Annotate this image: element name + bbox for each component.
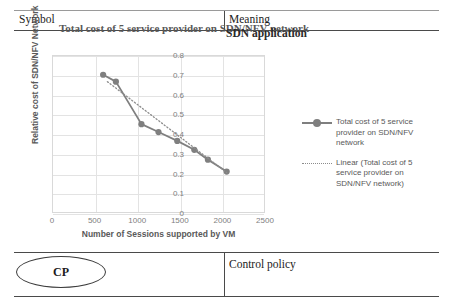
y-axis-tick-label: 0.8 bbox=[144, 51, 184, 60]
data-point-marker[interactable] bbox=[100, 72, 106, 78]
table-row-bottom-rule bbox=[14, 296, 439, 297]
x-axis-tick-label: 1500 bbox=[160, 216, 200, 225]
legend-label-trendline: Linear (Total cost of 5 service provider… bbox=[336, 158, 439, 190]
table-cell-meaning-cp: Control policy bbox=[229, 258, 296, 270]
y-axis-tick-label: 0.4 bbox=[144, 130, 184, 139]
data-point-marker[interactable] bbox=[138, 121, 144, 127]
x-axis-tick-label: 2000 bbox=[202, 216, 242, 225]
y-axis-tick-label: 0.3 bbox=[144, 150, 184, 159]
x-axis-tick-label: 2500 bbox=[245, 216, 285, 225]
cp-symbol-ellipse: CP bbox=[16, 256, 106, 288]
legend-dotted-line-icon bbox=[302, 158, 332, 170]
y-axis-tick-label: 0.6 bbox=[144, 91, 184, 100]
table-row-column-divider bbox=[224, 253, 225, 296]
y-axis-tick-label: 0.1 bbox=[144, 189, 184, 198]
x-axis-tick-label: 500 bbox=[75, 216, 115, 225]
y-axis-tick-label: 0.7 bbox=[144, 71, 184, 80]
table-row-top-rule bbox=[14, 252, 439, 253]
legend-label-series: Total cost of 5 service provider on SDN/… bbox=[336, 117, 439, 149]
legend-line-marker-icon bbox=[302, 117, 332, 129]
table-top-rule bbox=[14, 10, 439, 11]
legend-entry-series[interactable]: Total cost of 5 service provider on SDN/… bbox=[302, 117, 439, 149]
legend-entry-trendline[interactable]: Linear (Total cost of 5 service provider… bbox=[302, 158, 439, 190]
chart-container: Total cost of 5 service provider on SDN/… bbox=[14, 22, 439, 250]
y-axis-tick-label: 0.5 bbox=[144, 110, 184, 119]
x-axis-tick-label: 0 bbox=[32, 216, 72, 225]
chart-legend: Total cost of 5 service provider on SDN/… bbox=[302, 117, 439, 198]
overlapping-sdn-application-text: SDN application bbox=[226, 27, 307, 39]
y-axis-title: Relative cost of SDN/NFV Network bbox=[30, 14, 40, 144]
x-axis-tick-label: 1000 bbox=[117, 216, 157, 225]
y-axis-tick-label: 0.2 bbox=[144, 170, 184, 179]
x-axis-title: Number of Sessions supported by VM bbox=[52, 229, 265, 239]
cp-symbol-label: CP bbox=[53, 265, 69, 280]
data-point-marker[interactable] bbox=[113, 79, 119, 85]
